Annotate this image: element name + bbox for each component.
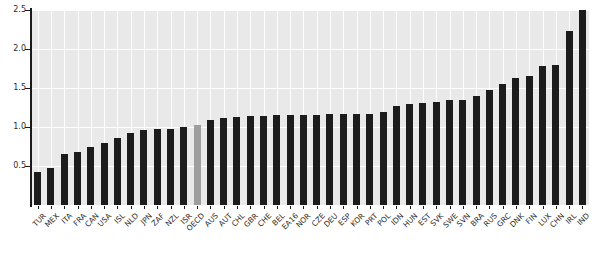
bar-hun <box>406 104 413 205</box>
x-axis-tick-labels: TURMEXITAFRACANUSAISLNLDJPNZAFNZLISROECD… <box>31 206 589 260</box>
x-tick-mark <box>64 206 65 209</box>
y-tick-label: 2.0 <box>13 45 26 53</box>
x-tick-label-dnk: DNK <box>508 212 525 229</box>
x-tick-mark <box>410 206 411 209</box>
x-tick-mark <box>290 206 291 209</box>
x-tick-mark <box>237 206 238 209</box>
x-tick-mark <box>343 206 344 209</box>
x-tick-mark <box>224 206 225 209</box>
bar-ita <box>61 154 68 205</box>
bar-jpn <box>140 130 147 205</box>
x-tick-mark <box>370 206 371 209</box>
bar-dnk <box>512 78 519 205</box>
bar-grc <box>499 84 506 205</box>
x-tick-mark <box>383 206 384 209</box>
bar-nld <box>127 133 134 205</box>
x-tick-mark <box>436 206 437 209</box>
bar-esp <box>340 114 347 205</box>
bar-tur <box>34 172 41 205</box>
x-tick-mark <box>157 206 158 209</box>
bar-aus <box>207 120 214 205</box>
x-tick-mark <box>51 206 52 209</box>
bar-lux <box>539 66 546 205</box>
bar-fra <box>74 152 81 205</box>
x-tick-mark <box>556 206 557 209</box>
bar-isl <box>114 138 121 205</box>
x-tick-label-nld: NLD <box>124 212 141 229</box>
y-tick-label: 1.0 <box>13 123 26 131</box>
x-tick-mark <box>197 206 198 209</box>
x-tick-mark <box>396 206 397 209</box>
x-tick-mark <box>117 206 118 209</box>
bar-rus <box>486 90 493 205</box>
x-tick-mark <box>357 206 358 209</box>
y-tick-label: 0.5 <box>13 162 26 170</box>
bar-irl <box>566 31 573 205</box>
x-tick-mark <box>38 206 39 209</box>
x-tick-mark <box>543 206 544 209</box>
bar-ind <box>579 10 586 205</box>
bar-aut <box>220 118 227 205</box>
bar-nzl <box>167 129 174 205</box>
x-tick-label-ita: ITA <box>60 212 74 226</box>
bar-usa <box>101 143 108 205</box>
x-tick-mark <box>210 206 211 209</box>
bar-bra <box>473 96 480 205</box>
bar-svn <box>459 100 466 205</box>
x-tick-mark <box>277 206 278 209</box>
x-tick-mark <box>582 206 583 209</box>
bar-can <box>87 147 94 205</box>
x-tick-mark <box>516 206 517 209</box>
bar-cze <box>313 115 320 205</box>
x-tick-mark <box>264 206 265 209</box>
bar-kor <box>353 114 360 205</box>
x-tick-mark <box>463 206 464 209</box>
x-tick-mark <box>476 206 477 209</box>
bar-prt <box>366 114 373 205</box>
bar-svk <box>433 102 440 205</box>
bar-chl <box>233 117 240 205</box>
x-tick-mark <box>330 206 331 209</box>
x-tick-mark <box>144 206 145 209</box>
y-tick-label: 2.5 <box>13 6 26 14</box>
x-tick-mark <box>131 206 132 209</box>
bar-chn <box>552 65 559 205</box>
x-tick-mark <box>171 206 172 209</box>
x-tick-mark <box>569 206 570 209</box>
x-tick-mark <box>78 206 79 209</box>
bar-bel <box>273 115 280 205</box>
x-tick-mark <box>104 206 105 209</box>
x-tick-mark <box>184 206 185 209</box>
x-tick-mark <box>317 206 318 209</box>
x-tick-mark <box>529 206 530 209</box>
x-tick-mark <box>450 206 451 209</box>
bar-isr <box>180 127 187 205</box>
bar-fin <box>526 76 533 205</box>
bar-nor <box>300 115 307 205</box>
bar-oecd <box>194 125 201 205</box>
y-tick-label: 1.5 <box>13 84 26 92</box>
y-axis-line <box>30 8 32 207</box>
bar-mex <box>47 168 54 205</box>
x-tick-mark <box>503 206 504 209</box>
x-tick-label-fin: FIN <box>524 212 538 226</box>
bars-layer <box>31 10 589 205</box>
x-tick-label-usa: USA <box>97 212 114 229</box>
x-tick-label-mex: MEX <box>43 212 60 229</box>
x-tick-label-ind: IND <box>576 212 591 227</box>
x-tick-mark <box>250 206 251 209</box>
bar-deu <box>326 114 333 205</box>
bar-gbr <box>247 116 254 205</box>
bar-idn <box>393 106 400 205</box>
bar-zaf <box>154 129 161 205</box>
bar-che <box>260 116 267 205</box>
x-tick-mark <box>91 206 92 209</box>
bar-chart: 0.51.01.52.02.5 TURMEXITAFRACANUSAISLNLD… <box>0 0 594 260</box>
x-tick-mark <box>423 206 424 209</box>
bar-pol <box>380 112 387 205</box>
bar-est <box>419 103 426 205</box>
bar-ea16 <box>287 115 294 205</box>
x-tick-mark <box>303 206 304 209</box>
x-tick-mark <box>489 206 490 209</box>
bar-swe <box>446 100 453 205</box>
